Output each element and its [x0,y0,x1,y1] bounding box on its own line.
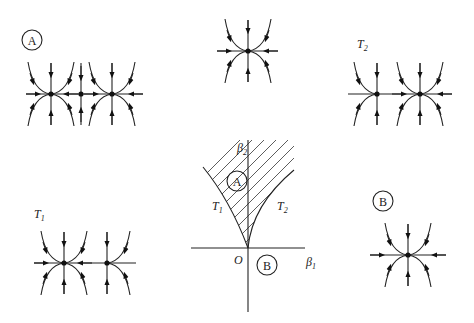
t2-portrait-label: T2 [357,37,368,53]
parameter-plane: β2 β1 O T1 T2 A B [180,120,368,312]
t1-portrait-label: T1 [34,207,45,223]
curve-t2-label: T2 [277,199,288,215]
portrait-curve-t2: T2 [348,37,452,126]
portrait-region-a: A [22,30,143,126]
curve-t1-label: T1 [212,199,223,215]
portrait-origin [217,19,278,83]
region-a-hatching [180,120,368,244]
region-b-badge-label: B [379,195,387,209]
beta2-axis-label: β2 [236,141,247,157]
beta1-axis-label: β1 [305,255,316,271]
region-a-label: A [233,175,242,189]
portrait-region-b: B [370,191,446,287]
bifurcation-diagram: A [0,0,474,323]
origin-label: O [234,253,243,267]
region-a-badge-label: A [28,34,37,48]
portrait-curve-t1: T1 [34,207,136,295]
region-b-label: B [263,259,271,273]
